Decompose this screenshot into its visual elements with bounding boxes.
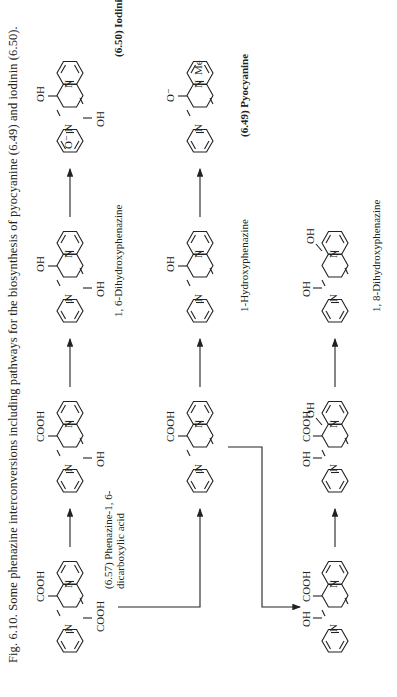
structure-bot1 — [322, 562, 348, 653]
substituent-oh: OH — [304, 402, 316, 418]
substituent-cooh: COOH — [94, 601, 106, 632]
atom-n: N — [62, 580, 74, 588]
atom-n: N — [62, 624, 74, 632]
atom-n: N — [192, 294, 204, 302]
label-1-8-dihydroxyphenazine: 1, 8-Dihydroxyphenazine — [370, 200, 382, 312]
label-1-hydroxyphenazine: 1-Hydroxyphenazine — [238, 219, 250, 312]
reaction-scheme — [0, 0, 397, 697]
substituent-oh: OH — [94, 451, 106, 467]
substituent-cooh: COOH — [34, 571, 46, 602]
substituent-cooh: COOH — [34, 411, 46, 442]
atom-n: N — [327, 580, 339, 588]
structure-mid2 — [187, 232, 213, 323]
rotated-page: Fig. 6.10. Some phenazine interconversio… — [0, 0, 397, 697]
atom-n: N — [192, 464, 204, 472]
atom-n: N — [327, 250, 339, 258]
atom-n: N — [62, 420, 74, 428]
atom-n: N — [62, 250, 74, 258]
substituent-oh: OH — [300, 281, 312, 297]
label-6-57-b: dicarboxylic acid — [114, 513, 126, 589]
atom-n: N — [62, 464, 74, 472]
substituent-oh: OH — [300, 451, 312, 467]
label-6-57-a: (6.57) Phenazine-1, 6- — [102, 491, 114, 589]
substituent-me: Me — [192, 60, 204, 75]
structure-top3 — [57, 232, 83, 323]
structure-bot2 — [322, 402, 348, 493]
atom-n-plus: N — [62, 124, 74, 132]
atom-n: N — [192, 420, 204, 428]
substituent-oh: OH — [304, 228, 316, 244]
substituent-o-minus: O⁻ — [62, 135, 74, 149]
atom-n: N — [327, 464, 339, 472]
atom-n: N — [327, 294, 339, 302]
atom-n: N — [327, 624, 339, 632]
substituent-oh: OH — [164, 256, 176, 272]
substituent-oh: OH — [94, 281, 106, 297]
substituent-oh: OH — [300, 611, 312, 627]
atom-n: N — [62, 80, 74, 88]
substituent-cooh: COOH — [164, 411, 176, 442]
structure-bot3 — [322, 232, 348, 323]
atom-n: N — [327, 420, 339, 428]
substituent-oh: OH — [34, 86, 46, 102]
atom-n-plus: N — [192, 80, 204, 88]
label-1-6-dihydroxyphenazine: 1, 6-Dihydroxyphenazine — [112, 205, 124, 317]
structure-6-57 — [57, 562, 83, 653]
atom-n: N — [192, 250, 204, 258]
structure-top2 — [57, 402, 83, 493]
substituent-oh: OH — [34, 256, 46, 272]
label-pyocyanine: (6.49) Pyocyanine — [238, 54, 250, 137]
atom-n: N — [62, 294, 74, 302]
substituent-o-minus: O⁻ — [164, 88, 176, 102]
structure-mid1 — [187, 402, 213, 493]
substituent-cooh: COOH — [300, 571, 312, 602]
label-iodinin: (6.50) Iodinin — [112, 0, 124, 57]
substituent-oh: OH — [94, 111, 106, 127]
atom-n: N — [192, 124, 204, 132]
